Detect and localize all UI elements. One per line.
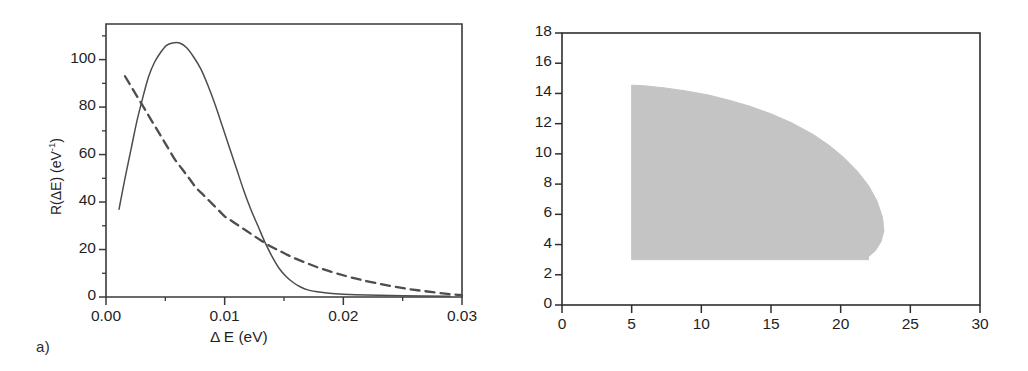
y-tick-label: 10 xyxy=(500,143,552,161)
y-tick-label: 16 xyxy=(500,52,552,70)
x-tick-label: 0.01 xyxy=(187,307,263,325)
y-tick-label: 2 xyxy=(500,264,552,282)
solid-curve xyxy=(119,43,450,297)
dashed-curve xyxy=(125,76,462,295)
y-tick-label: 40 xyxy=(42,191,96,209)
y-tick-label: 18 xyxy=(500,22,552,40)
x-tick-label: 20 xyxy=(803,315,879,333)
x-tick-label: 0.03 xyxy=(424,307,500,325)
y-tick-label: 100 xyxy=(42,49,96,67)
y-tick-label: 80 xyxy=(42,96,96,114)
y-tick-label: 0 xyxy=(500,294,552,312)
panel-a: R(ΔE) (eV-1) Δ E (eV) a) 0204060801000.0… xyxy=(0,0,514,371)
y-tick-label: 4 xyxy=(500,234,552,252)
panel-b: y (nm) x (nm) b) 02468101214161805101520… xyxy=(514,0,1028,371)
y-tick-label: 6 xyxy=(500,203,552,221)
x-tick-label: 30 xyxy=(942,315,1018,333)
panel-a-label: a) xyxy=(36,338,50,355)
x-tick-label: 0.00 xyxy=(68,307,144,325)
y-tick-label: 60 xyxy=(42,144,96,162)
y-tick-label: 12 xyxy=(500,113,552,131)
figure-container: R(ΔE) (eV-1) Δ E (eV) a) 0204060801000.0… xyxy=(0,0,1028,371)
y-tick-label: 8 xyxy=(500,173,552,191)
x-tick-label: 15 xyxy=(733,315,809,333)
panel-a-x-axis-title: Δ E (eV) xyxy=(210,328,268,346)
x-tick-label: 10 xyxy=(663,315,739,333)
y-tick-label: 20 xyxy=(42,239,96,257)
x-tick-label: 5 xyxy=(594,315,670,333)
x-tick-label: 0.02 xyxy=(305,307,381,325)
shaded-region xyxy=(632,85,884,260)
y-tick-label: 14 xyxy=(500,82,552,100)
x-tick-label: 0 xyxy=(524,315,600,333)
y-axis-title-suffix: ) xyxy=(48,138,64,143)
y-tick-label: 0 xyxy=(42,286,96,304)
x-tick-label: 25 xyxy=(872,315,948,333)
